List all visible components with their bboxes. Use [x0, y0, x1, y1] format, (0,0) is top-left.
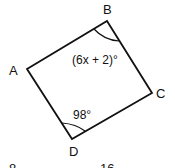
choice-text-1: 8 [9, 161, 16, 168]
quadrilateral-diagram: B A C D (6x + 2)° 98° 8 16 [0, 0, 175, 168]
angle-label-b: (6x + 2)° [72, 53, 118, 67]
vertex-label-c: C [156, 86, 165, 101]
vertex-label-a: A [9, 63, 18, 78]
vertex-label-d: D [69, 144, 78, 159]
angle-label-d: 98° [73, 108, 91, 122]
choice-text-2: 16 [100, 161, 114, 168]
vertex-label-b: B [103, 2, 112, 17]
